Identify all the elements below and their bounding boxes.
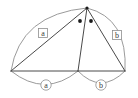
label-lower-left-text: a <box>44 81 48 90</box>
segment-apex-to-middle <box>78 8 87 71</box>
label-upper-right: b <box>113 31 122 40</box>
angle-mark-dot-right <box>89 19 93 23</box>
label-upper-left: a <box>39 29 48 38</box>
segment-group <box>11 8 125 71</box>
label-upper-right-text: b <box>115 31 119 40</box>
apex-point-dot <box>85 6 88 9</box>
geometry-figure: a b a b <box>0 0 138 98</box>
label-lower-left: a <box>41 80 51 90</box>
figure-canvas: a b a b <box>0 0 138 98</box>
angle-mark-dot-left <box>78 19 82 23</box>
arc-group <box>11 8 125 85</box>
label-lower-right: b <box>96 80 106 90</box>
label-upper-left-text: a <box>41 29 45 38</box>
label-lower-right-text: b <box>99 81 103 90</box>
